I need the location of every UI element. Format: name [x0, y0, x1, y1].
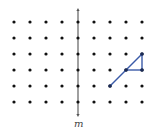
- grid-dot: [12, 20, 15, 23]
- grid-dot: [92, 68, 95, 71]
- grid-dot: [140, 84, 143, 87]
- grid-dot: [44, 68, 47, 71]
- grid-dot: [124, 36, 127, 39]
- grid-dot: [28, 52, 31, 55]
- grid-dot: [108, 20, 111, 23]
- grid-dot: [60, 68, 63, 71]
- grid-dot: [76, 52, 79, 55]
- grid-dot: [44, 20, 47, 23]
- line-label-m: m: [74, 118, 83, 129]
- grid-dot: [28, 84, 31, 87]
- figure-segments: [108, 52, 144, 88]
- grid-dot: [12, 84, 15, 87]
- grid-dot: [60, 100, 63, 103]
- grid-dot: [76, 20, 79, 23]
- figure-vertex: [140, 52, 144, 56]
- grid-dot: [28, 68, 31, 71]
- grid-dot: [76, 100, 79, 103]
- grid-dot: [44, 52, 47, 55]
- grid-dot: [12, 36, 15, 39]
- grid-dot: [60, 20, 63, 23]
- grid-dot: [76, 84, 79, 87]
- grid-dot: [124, 84, 127, 87]
- figure-vertex: [108, 84, 112, 88]
- grid-dot: [44, 100, 47, 103]
- grid-dot: [60, 84, 63, 87]
- grid-dot: [92, 36, 95, 39]
- grid-dot: [108, 68, 111, 71]
- grid-dot: [108, 36, 111, 39]
- grid-dot: [12, 68, 15, 71]
- figure-vertex: [140, 68, 144, 72]
- grid-dot: [28, 100, 31, 103]
- grid-dot: [108, 100, 111, 103]
- grid-dot: [92, 52, 95, 55]
- grid-dot: [12, 100, 15, 103]
- grid-dot: [76, 36, 79, 39]
- grid-dot: [28, 20, 31, 23]
- figure-vertex: [124, 68, 128, 72]
- grid-dot: [28, 36, 31, 39]
- grid-dot: [140, 20, 143, 23]
- grid-dot: [76, 68, 79, 71]
- dot-grid-diagram: [0, 0, 153, 135]
- grid-dot: [44, 36, 47, 39]
- grid-dot: [60, 36, 63, 39]
- grid-dot: [92, 84, 95, 87]
- grid-dot: [92, 100, 95, 103]
- grid-dot: [124, 100, 127, 103]
- grid-dot: [124, 52, 127, 55]
- grid-dot: [92, 20, 95, 23]
- grid-dot: [124, 20, 127, 23]
- grid-dot: [108, 52, 111, 55]
- arrow-down-icon: [76, 114, 79, 117]
- grid-dot: [44, 84, 47, 87]
- grid-dot: [60, 52, 63, 55]
- grid-dot: [140, 36, 143, 39]
- grid-dot: [140, 100, 143, 103]
- arrow-up-icon: [76, 8, 79, 11]
- grid-dot: [12, 52, 15, 55]
